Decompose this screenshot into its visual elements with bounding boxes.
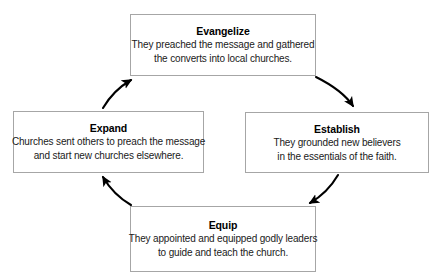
arrow-evangelize-to-establish [316,77,353,106]
node-evangelize-title: Evangelize [196,24,249,38]
node-expand-line-1: Churches sent others to preach the messa… [12,135,205,149]
node-equip[interactable]: Equip They appointed and equipped godly … [130,206,316,272]
node-evangelize[interactable]: Evangelize They preached the message and… [130,14,316,76]
arrow-establish-to-equip [310,175,338,203]
node-evangelize-line-2: the converts into local churches. [154,52,292,66]
node-establish[interactable]: Establish They grounded new believers in… [245,112,429,173]
node-establish-line-2: in the essentials of the faith. [277,150,396,164]
node-expand-title: Expand [90,121,127,135]
node-equip-title: Equip [209,218,238,232]
node-expand-line-2: and start new churches elsewhere. [34,149,184,163]
arrow-equip-to-expand [103,177,131,205]
node-evangelize-line-1: They preached the message and gathered [132,38,315,52]
node-establish-title: Establish [314,122,360,136]
node-establish-line-1: They grounded new believers [273,136,400,150]
node-equip-line-2: to guide and teach the church. [158,246,288,260]
node-expand[interactable]: Expand Churches sent others to preach th… [13,111,204,173]
cycle-diagram: Evangelize They preached the message and… [0,0,445,278]
node-equip-line-1: They appointed and equipped godly leader… [129,232,317,246]
arrow-expand-to-evangelize [103,80,131,108]
